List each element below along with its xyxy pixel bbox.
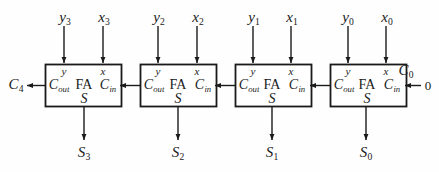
pin-label-x-stage3: x [101,66,106,77]
fa-block-label-stage0: FA [359,78,376,92]
input-label-x1: x1 [286,10,298,25]
pin-label-s-stage0: S [364,92,371,106]
pin-label-s-stage3: S [81,92,88,106]
output-label-c4: C4 [9,77,24,92]
pin-label-y-stage2: y [156,66,161,77]
input-label-y1: y1 [248,10,260,25]
input-label-x3: x3 [98,10,110,25]
output-label-s3: S3 [78,145,90,160]
fa-block-label-stage3: FA [76,78,93,92]
pin-label-cin-stage2: Cin [195,78,211,92]
input-label-c0: C0 [399,63,414,78]
fa-block-label-stage1: FA [264,78,281,92]
pin-label-cin-stage0: Cin [384,78,400,92]
pin-label-s-stage2: S [175,92,182,106]
pin-label-cout-stage3: Cout [49,78,70,92]
pin-label-y-stage3: y [62,66,67,77]
output-label-s0: S0 [360,145,372,160]
pin-label-cout-stage0: Cout [334,78,355,92]
pin-label-cin-stage3: Cin [100,78,116,92]
pin-label-cout-stage2: Cout [144,78,165,92]
carry-in-constant-value: 0 [425,79,432,92]
pin-label-y-stage0: y [346,66,351,77]
output-label-s1: S1 [266,145,278,160]
input-label-y0: y0 [342,10,354,25]
input-label-x2: x2 [192,10,204,25]
pin-label-x-stage0: x [384,66,389,77]
pin-label-s-stage1: S [269,92,276,106]
input-label-y3: y3 [59,10,71,25]
output-label-s2: S2 [172,145,184,160]
pin-label-y-stage1: y [251,66,256,77]
pin-label-x-stage2: x [195,66,200,77]
pin-label-cout-stage1: Cout [239,78,260,92]
adder-diagram-canvas: y3 x3 y2 x2 y1 x1 y0 x0 C4 C0 0 y x Cout… [0,0,439,172]
pin-label-x-stage1: x [289,66,294,77]
input-label-y2: y2 [153,10,165,25]
input-label-x0: x0 [381,10,393,25]
fa-block-label-stage2: FA [170,78,187,92]
pin-label-cin-stage1: Cin [289,78,305,92]
